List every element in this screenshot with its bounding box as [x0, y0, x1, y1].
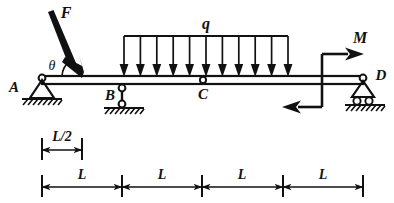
moment-label-m: M	[352, 29, 368, 46]
support-b-upper-pin	[119, 85, 126, 92]
dim-span-1-label: L	[77, 167, 87, 182]
angle-theta-label: θ	[49, 58, 56, 73]
dimension-chain: L L L L	[42, 167, 363, 197]
dim-half-span-label: L/2	[51, 129, 71, 144]
dim-chain-ticks	[42, 175, 363, 197]
dim-span-4-label: L	[318, 167, 328, 182]
support-b-link: B	[104, 85, 144, 114]
support-d-roller-right	[365, 97, 372, 104]
dim-span-3-label: L	[237, 167, 247, 182]
support-a-label: A	[8, 79, 19, 95]
hinge-c-label: C	[198, 86, 209, 102]
force-f-label: F	[60, 4, 72, 21]
beam-diagram-canvas: A B	[0, 0, 394, 203]
udl-label-q: q	[202, 15, 210, 33]
udl-arrow-group	[124, 36, 288, 67]
support-b-lower-pin	[119, 101, 126, 108]
dimension-half-span: L/2	[42, 129, 82, 160]
support-b-label: B	[104, 87, 115, 103]
support-d-roller-left	[353, 97, 360, 104]
distributed-load-q: q	[120, 15, 293, 77]
beam-diagram-svg: A B	[0, 0, 394, 203]
hinge-c-circle	[200, 77, 206, 83]
support-d-roller: D	[345, 67, 387, 111]
dim-span-2-label: L	[157, 167, 167, 182]
support-d-label: D	[375, 67, 387, 83]
